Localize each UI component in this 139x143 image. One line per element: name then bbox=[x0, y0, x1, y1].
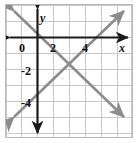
coordinate-plane: 0 2 4 -2 -4 x y bbox=[6, 5, 132, 137]
x-tick-label-4: 4 bbox=[82, 42, 88, 54]
y-tick-label-minus-2: -2 bbox=[21, 65, 31, 77]
x-axis-label: x bbox=[119, 42, 125, 54]
x-tick-label-2: 2 bbox=[50, 42, 56, 54]
graph-figure: 0 2 4 -2 -4 x y bbox=[0, 0, 139, 143]
y-tick-label-minus-4: -4 bbox=[21, 97, 31, 109]
y-axis-label: y bbox=[40, 12, 45, 24]
x-tick-label-0: 0 bbox=[19, 42, 25, 54]
